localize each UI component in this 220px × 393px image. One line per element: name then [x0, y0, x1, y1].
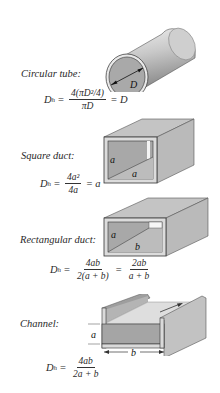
rectangular-duct-drawing: a b [102, 196, 210, 258]
svg-text:a: a [91, 329, 96, 340]
circular-tube-equation: Dh = 4(πD²/4)πD = D [44, 88, 127, 112]
diameter-label: D [129, 79, 138, 90]
square-duct-label: Square duct: [21, 150, 75, 161]
rectangular-duct-equation: Dh = 4ab2(a + b) = 2aba + b [50, 258, 153, 282]
channel-drawing: a b [88, 294, 210, 356]
svg-text:a: a [132, 168, 137, 179]
rectangular-duct-label: Rectangular duct: [20, 234, 96, 245]
svg-text:a: a [110, 154, 115, 165]
circular-tube-drawing: D [100, 22, 200, 92]
svg-text:b: b [131, 347, 136, 356]
square-duct-equation: Dh = 4a²4a = a [40, 172, 101, 196]
channel-equation: Dh = 4ab2a + b [46, 356, 102, 380]
channel-label: Channel: [20, 318, 59, 329]
svg-text:a: a [111, 229, 116, 240]
svg-text:b: b [135, 241, 140, 252]
circular-tube-label: Circular tube: [21, 68, 81, 79]
square-duct-drawing: a a [102, 117, 197, 185]
